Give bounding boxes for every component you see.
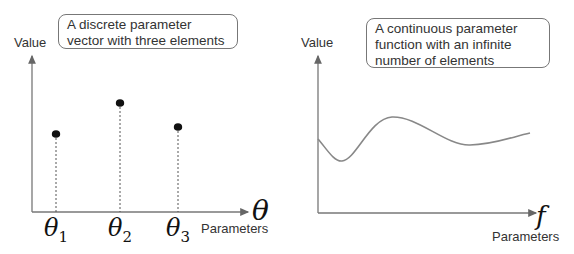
x-axis-label: Parameters [201,221,268,236]
discrete-parameter-panel: A discrete parameter vector with three e… [0,0,290,254]
continuous-parameter-panel: A continuous parameter function with an … [287,0,574,254]
theta1-label: θ1 [44,214,68,246]
y-axis-label: Value [301,35,333,50]
parameter-function-curve [318,117,530,161]
x-axis-label: Parameters [492,229,559,244]
theta3-label: θ3 [166,214,190,246]
y-axis-label: Value [14,35,46,50]
f-axis-symbol: f [536,201,546,231]
discrete-callout: A discrete parameter vector with three e… [58,14,238,49]
point-theta3 [174,123,182,131]
point-theta1 [52,130,60,138]
theta2-label: θ2 [108,214,132,246]
point-theta2 [116,99,124,107]
continuous-callout: A continuous parameter function with an … [366,18,550,68]
